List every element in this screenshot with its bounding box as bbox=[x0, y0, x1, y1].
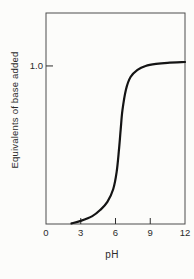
x-tick-label: 12 bbox=[180, 227, 191, 238]
x-axis-label: pH bbox=[105, 249, 118, 260]
x-tick-label: 3 bbox=[78, 227, 83, 238]
x-tick-label: 0 bbox=[43, 227, 48, 238]
plot-frame bbox=[46, 13, 185, 224]
y-tick-label: 1.0 bbox=[30, 60, 43, 71]
x-tick-label: 6 bbox=[113, 227, 118, 238]
curve-path bbox=[71, 62, 185, 223]
titration-curve-plot: 0369121.0 bbox=[0, 0, 194, 279]
x-tick-label: 9 bbox=[148, 227, 153, 238]
titration-figure: Equivalents of base added 0369121.0 pH bbox=[0, 0, 194, 279]
